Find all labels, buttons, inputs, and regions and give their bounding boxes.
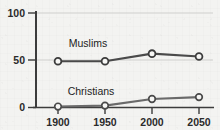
data-point-christians-2050 xyxy=(196,94,203,101)
y-tick-label-100: 100 xyxy=(7,7,25,19)
data-point-christians-1950 xyxy=(102,102,109,109)
data-point-christians-1900 xyxy=(55,103,62,110)
gridlines xyxy=(36,13,213,60)
x-tick-label-2000: 2000 xyxy=(140,116,164,128)
series-muslims xyxy=(55,50,203,64)
x-tick-label-1900: 1900 xyxy=(46,116,70,128)
y-axis-ticks xyxy=(28,13,36,108)
chart-container: 100 50 0 1900 1950 2000 2050 xyxy=(0,0,220,130)
series-label-muslims: Muslims xyxy=(69,37,108,49)
x-tick-label-1950: 1950 xyxy=(93,116,117,128)
data-point-muslims-2000 xyxy=(149,50,156,57)
y-tick-label-50: 50 xyxy=(13,54,25,66)
x-tick-label-2050: 2050 xyxy=(187,116,211,128)
data-point-muslims-2050 xyxy=(196,53,203,60)
data-point-muslims-1950 xyxy=(102,58,109,65)
line-chart-plot: 100 50 0 1900 1950 2000 2050 xyxy=(0,0,220,130)
x-axis-ticks xyxy=(58,108,199,114)
data-point-muslims-1900 xyxy=(55,58,62,65)
y-tick-label-0: 0 xyxy=(19,101,25,113)
data-point-christians-2000 xyxy=(149,96,156,103)
series-label-christians: Christians xyxy=(68,85,115,97)
series-line-christians xyxy=(58,97,199,106)
